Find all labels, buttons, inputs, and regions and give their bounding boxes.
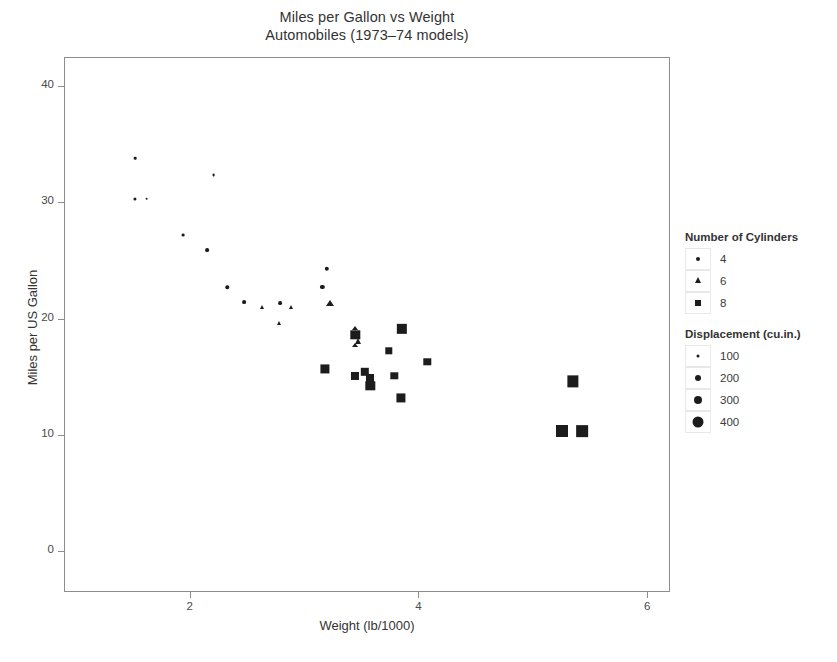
plot-frame	[64, 57, 670, 592]
data-point	[424, 358, 431, 365]
circle-marker-icon	[685, 248, 711, 270]
data-point	[320, 364, 329, 373]
y-axis-tick	[58, 319, 64, 320]
x-axis-tick	[647, 592, 648, 598]
x-axis-tick-label: 2	[170, 600, 210, 612]
chart-figure: Miles per Gallon vs Weight Automobiles (…	[0, 0, 837, 662]
legend-item-label: 400	[720, 416, 739, 428]
data-point	[133, 197, 136, 200]
circle-marker-icon	[685, 345, 711, 367]
legend-cylinders-title: Number of Cylinders	[685, 231, 798, 243]
circle-marker-icon	[685, 367, 711, 389]
page-title: Miles per Gallon vs Weight	[64, 8, 670, 26]
legend-displacement-title: Displacement (cu.in.)	[685, 328, 801, 340]
legend-item[interactable]: 4	[685, 248, 798, 270]
data-point	[326, 300, 334, 306]
legend-item-label: 4	[720, 253, 726, 265]
data-point	[289, 305, 293, 309]
x-axis-tick	[418, 592, 419, 598]
triangle-marker-icon	[685, 270, 711, 292]
legend-item[interactable]: 100	[685, 345, 801, 367]
data-point	[242, 300, 246, 304]
chart-title-block: Miles per Gallon vs Weight Automobiles (…	[64, 8, 670, 44]
data-point	[397, 393, 406, 402]
legend-item-label: 200	[720, 372, 739, 384]
y-axis-label: Miles per US Gallon	[25, 58, 40, 598]
data-point	[145, 197, 148, 200]
circle-marker-icon	[685, 389, 711, 411]
plot-area	[65, 58, 669, 591]
data-point	[366, 374, 374, 382]
legend-item[interactable]: 6	[685, 270, 798, 292]
data-point	[556, 425, 568, 437]
legend-displacement-body: 100200300400	[685, 345, 801, 433]
x-axis-tick-label: 6	[627, 600, 667, 612]
data-point	[134, 157, 137, 160]
legend-item-label: 100	[720, 350, 739, 362]
data-point	[320, 285, 324, 289]
y-axis-tick	[58, 202, 64, 203]
legend-item[interactable]: 200	[685, 367, 801, 389]
y-axis-tick	[58, 86, 64, 87]
legend-item-label: 6	[720, 275, 726, 287]
legend-item[interactable]: 300	[685, 389, 801, 411]
data-point	[385, 347, 392, 354]
data-point	[277, 321, 281, 325]
x-axis-tick-label: 4	[398, 600, 438, 612]
legend-item[interactable]: 400	[685, 411, 801, 433]
legend-displacement: Displacement (cu.in.) 100200300400	[685, 328, 801, 433]
data-point	[352, 343, 358, 347]
data-point	[351, 371, 359, 379]
data-point	[351, 330, 360, 339]
data-point	[212, 174, 215, 177]
data-point	[576, 425, 588, 437]
data-point	[260, 305, 264, 309]
legend-cylinders-body: 468	[685, 248, 798, 314]
data-point	[325, 266, 329, 270]
square-marker-icon	[685, 292, 711, 314]
data-point	[397, 324, 407, 334]
y-axis-tick	[58, 435, 64, 436]
data-point	[391, 372, 398, 379]
y-axis-tick	[58, 551, 64, 552]
legend-item[interactable]: 8	[685, 292, 798, 314]
legend-item-label: 300	[720, 394, 739, 406]
legend-cylinders: Number of Cylinders 468	[685, 231, 798, 314]
legend-item-label: 8	[720, 297, 726, 309]
x-axis-label: Weight (lb/1000)	[64, 618, 670, 633]
x-axis-tick	[190, 592, 191, 598]
data-point	[205, 248, 209, 252]
data-point	[182, 233, 185, 236]
chart-subtitle: Automobiles (1973–74 models)	[64, 26, 670, 44]
data-point	[226, 285, 229, 288]
data-point	[278, 302, 282, 306]
data-point	[568, 376, 579, 387]
data-point	[366, 381, 375, 390]
circle-marker-icon	[685, 411, 711, 433]
